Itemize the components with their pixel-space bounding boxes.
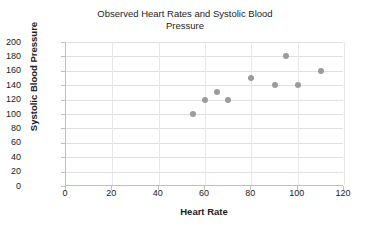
data-point <box>190 111 196 117</box>
y-axis-tick-label: 160 <box>0 66 21 75</box>
x-axis-tick-mark <box>250 186 251 190</box>
x-axis-tick-label: 20 <box>91 189 131 198</box>
data-point <box>272 82 278 88</box>
data-point <box>214 89 220 95</box>
x-axis-tick-label: 60 <box>184 189 224 198</box>
x-axis-tick-label: 120 <box>323 189 363 198</box>
data-point <box>225 97 231 103</box>
x-axis-tick-mark <box>158 186 159 190</box>
gridline-vertical <box>159 42 160 185</box>
gridline-vertical <box>205 42 206 185</box>
x-axis-tick-label: 100 <box>277 189 317 198</box>
y-axis-tick-label: 120 <box>0 95 21 104</box>
gridline-vertical <box>298 42 299 185</box>
y-axis-title: Systolic Blood Pressure <box>28 2 39 152</box>
x-axis-tick-mark <box>297 186 298 190</box>
data-point <box>283 53 289 59</box>
gridline-vertical <box>251 42 252 185</box>
chart-title: Observed Heart Rates and Systolic Blood … <box>50 8 320 32</box>
scatter-chart: Observed Heart Rates and Systolic Blood … <box>0 0 368 231</box>
x-axis-tick-mark <box>204 186 205 190</box>
y-axis-tick-label: 20 <box>0 167 21 176</box>
y-axis-tick-label: 140 <box>0 81 21 90</box>
x-axis-title: Heart Rate <box>65 206 343 217</box>
x-axis-tick-mark <box>343 186 344 190</box>
x-axis-tick-label: 80 <box>230 189 270 198</box>
y-axis-tick-label: 40 <box>0 153 21 162</box>
x-axis-tick-label: 40 <box>138 189 178 198</box>
y-axis-tick-label: 100 <box>0 110 21 119</box>
y-axis-tick-label: 180 <box>0 52 21 61</box>
y-axis-tick-label: 0 <box>0 182 21 191</box>
x-axis-tick-mark <box>65 186 66 190</box>
y-axis-tick-label: 200 <box>0 38 21 47</box>
gridline-vertical <box>112 42 113 185</box>
data-point <box>248 75 254 81</box>
data-point <box>295 82 301 88</box>
x-axis-tick-mark <box>111 186 112 190</box>
y-axis-tick-label: 60 <box>0 138 21 147</box>
y-axis-tick-label: 80 <box>0 124 21 133</box>
x-axis-tick-label: 0 <box>45 189 85 198</box>
plot-area <box>65 42 343 186</box>
data-point <box>202 97 208 103</box>
data-point <box>318 68 324 74</box>
gridline-vertical <box>344 42 345 185</box>
